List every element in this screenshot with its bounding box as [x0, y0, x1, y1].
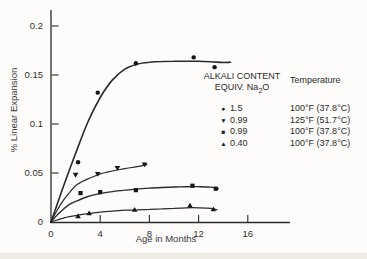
- square-data-marker: [78, 191, 82, 195]
- x-axis-title: Age in Months: [116, 233, 216, 244]
- expansion-vs-age-figure: 00.050.10.150.20481216 % Linear Expansio…: [0, 0, 367, 259]
- y-tick-label: 0.2: [30, 20, 43, 31]
- chart-legend: ALKALI CONTENT EQUIV. Na2O Temperature ●…: [198, 71, 366, 155]
- legend-row: ▲ 0.40 100°F (37.8°C): [198, 138, 366, 149]
- legend-alkali-value: 0.40: [230, 138, 248, 148]
- legend-row: ■ 0.99 100°F (37.8°C): [198, 126, 366, 137]
- triangle-up-marker-icon: ▲: [219, 138, 228, 149]
- square-data-marker: [214, 187, 218, 191]
- legend-temperature-value: 100°F (37.8°C): [290, 103, 350, 113]
- legend-alkali-value: 0.99: [230, 115, 248, 125]
- triangle-down-data-marker: [73, 173, 79, 178]
- square-data-marker: [190, 184, 194, 188]
- y-tick-label: 0.1: [30, 118, 43, 129]
- square-data-marker: [98, 190, 102, 194]
- circle-marker-icon: ●: [219, 103, 228, 114]
- circle-data-marker: [134, 61, 138, 65]
- triangle-down-marker-icon: ▼: [219, 115, 228, 126]
- legend-temperature-header: Temperature: [290, 75, 341, 85]
- square-marker-icon: ■: [219, 126, 228, 137]
- legend-temperature-value: 100°F (37.8°C): [290, 126, 350, 136]
- legend-alkali-subheader: EQUIV. Na2O: [198, 82, 286, 94]
- legend-temperature-value: 100°F (37.8°C): [290, 138, 350, 148]
- circle-data-marker: [76, 160, 80, 164]
- legend-alkali-value: 0.99: [230, 126, 248, 136]
- square-data-marker: [134, 188, 138, 192]
- y-tick-label: 0.05: [25, 167, 44, 178]
- legend-row: ● 1.5 100°F (37.8°C): [198, 103, 366, 114]
- y-tick-label: 0.15: [25, 69, 44, 80]
- legend-alkali-value: 1.5: [230, 103, 243, 113]
- y-tick-label: 0: [38, 216, 43, 227]
- triangle-up-data-marker: [187, 203, 193, 208]
- circle-data-marker: [96, 90, 100, 94]
- legend-temperature-value: 125°F (51.7°C): [290, 115, 350, 125]
- legend-alkali-header: ALKALI CONTENT: [198, 71, 286, 81]
- x-tick-label: 4: [98, 228, 103, 239]
- x-tick-label: 0: [48, 228, 53, 239]
- circle-data-marker: [191, 55, 195, 59]
- equiv-na2o-suffix: O: [262, 82, 269, 92]
- equiv-na2o-prefix: EQUIV. Na: [215, 82, 259, 92]
- y-axis-title: % Linear Expansion: [8, 60, 20, 160]
- page-scan-shadow: [0, 253, 367, 259]
- x-tick-label: 16: [243, 228, 254, 239]
- legend-row: ▼ 0.99 125°F (51.7°C): [198, 115, 366, 126]
- circle-data-marker: [212, 65, 216, 69]
